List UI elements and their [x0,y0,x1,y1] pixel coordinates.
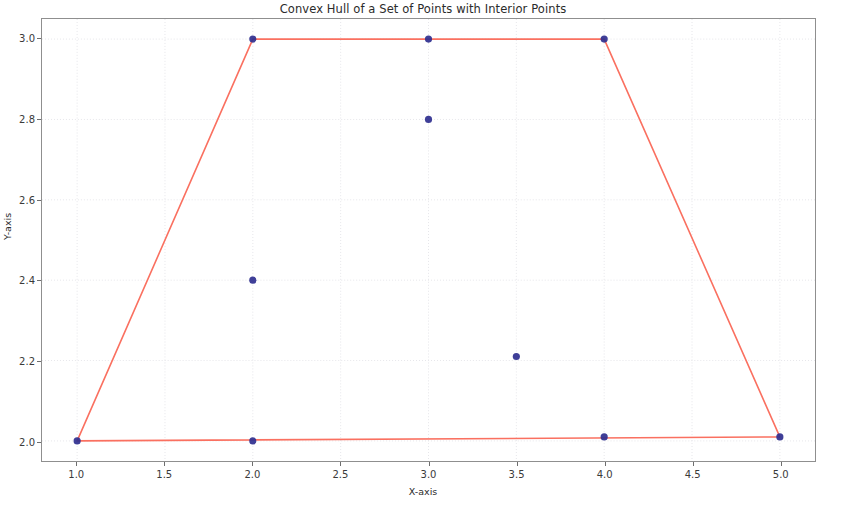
y-tick-label: 2.2 [12,356,35,367]
x-tick-mark [605,462,606,466]
x-tick-mark [693,462,694,466]
data-point-hull-vertex [249,36,256,43]
data-point-hull-vertex [249,437,256,444]
data-point-interior [513,353,520,360]
x-tick-mark [76,462,77,466]
y-tick-mark [37,361,41,362]
data-point-interior [249,277,256,284]
x-tick-label: 3.0 [421,469,437,480]
data-point-hull-vertex [74,437,81,444]
x-tick-label: 4.0 [597,469,613,480]
chart-title: Convex Hull of a Set of Points with Inte… [0,2,846,16]
x-tick-mark [781,462,782,466]
x-tick-mark [340,462,341,466]
data-point-hull-vertex [425,36,432,43]
y-tick-mark [37,200,41,201]
x-tick-label: 2.5 [332,469,348,480]
data-point-hull-vertex [601,433,608,440]
data-point-hull-vertex [776,433,783,440]
chart-figure: Convex Hull of a Set of Points with Inte… [0,0,846,509]
x-tick-label: 1.5 [156,469,172,480]
y-tick-label: 3.0 [12,33,35,44]
x-tick-label: 5.0 [773,469,789,480]
plot-svg [42,19,815,461]
data-point-interior [425,116,432,123]
y-tick-mark [37,280,41,281]
y-tick-label: 2.0 [12,436,35,447]
y-tick-mark [37,442,41,443]
y-tick-mark [37,119,41,120]
x-tick-label: 2.0 [244,469,260,480]
plot-area [41,18,816,462]
y-tick-label: 2.4 [12,275,35,286]
y-tick-label: 2.8 [12,113,35,124]
x-tick-mark [164,462,165,466]
gridlines [42,19,815,461]
x-tick-label: 3.5 [509,469,525,480]
x-tick-label: 4.5 [685,469,701,480]
x-tick-mark [252,462,253,466]
data-point-hull-vertex [601,36,608,43]
y-tick-label: 2.6 [12,194,35,205]
x-axis-label: X-axis [0,486,846,497]
y-axis-label: Y-axis [2,213,13,240]
x-tick-mark [429,462,430,466]
y-tick-mark [37,38,41,39]
x-tick-mark [517,462,518,466]
x-tick-label: 1.0 [68,469,84,480]
